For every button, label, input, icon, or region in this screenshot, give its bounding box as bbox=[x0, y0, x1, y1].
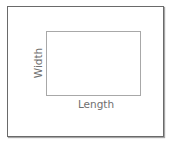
rectangle-shape bbox=[46, 31, 141, 96]
length-label: Length bbox=[76, 98, 116, 110]
width-label: Width bbox=[32, 41, 44, 85]
